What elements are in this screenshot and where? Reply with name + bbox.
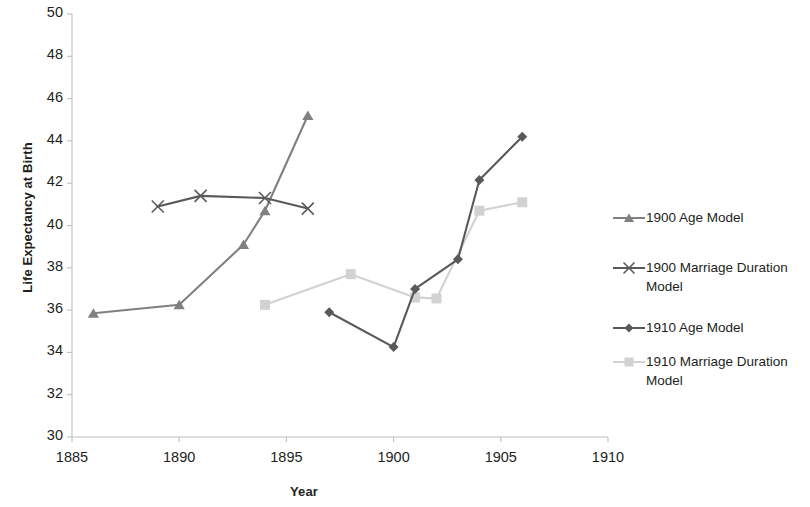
marker-diamond: [389, 342, 399, 352]
series-3: [260, 197, 527, 310]
legend-marker-diamond-icon: [612, 319, 646, 335]
legend-item-2[interactable]: 1910 Age Model: [612, 318, 744, 337]
marker-triangle: [302, 111, 313, 121]
series-line: [158, 196, 308, 209]
legend-item-0[interactable]: 1900 Age Model: [612, 208, 744, 227]
marker-square: [517, 197, 527, 207]
series-line: [93, 116, 307, 314]
series-line: [265, 202, 522, 305]
legend-label: 1900 Marriage Duration Model: [646, 258, 788, 296]
series-0: [88, 111, 314, 318]
chart-figure: Life Expectancy at Birth Year 5048464442…: [0, 0, 810, 507]
legend-marker-square-icon: [612, 353, 646, 369]
legend-label: 1900 Age Model: [646, 208, 744, 227]
legend-label: 1910 Age Model: [646, 318, 744, 337]
series-line: [329, 137, 522, 347]
legend-item-1[interactable]: 1900 Marriage Duration Model: [612, 258, 788, 296]
legend-item-3[interactable]: 1910 Marriage Duration Model: [612, 352, 788, 390]
marker-triangle: [238, 240, 249, 250]
marker-square: [474, 206, 484, 216]
marker-square: [346, 269, 356, 279]
marker-diamond: [625, 324, 634, 333]
series-1: [152, 190, 314, 215]
series-2: [324, 132, 527, 352]
marker-square: [260, 300, 270, 310]
legend-marker-triangle-icon: [612, 209, 646, 225]
marker-diamond: [324, 307, 334, 317]
marker-square: [625, 358, 634, 367]
marker-square: [431, 293, 441, 303]
legend-marker-x-icon: [612, 259, 646, 275]
legend-label: 1910 Marriage Duration Model: [646, 352, 788, 390]
marker-triangle: [259, 206, 270, 216]
plot-area: [0, 0, 810, 507]
